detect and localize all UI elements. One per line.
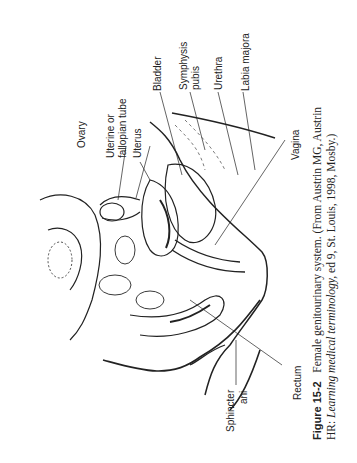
caption-line1: Figure 15-2 Female genitourinary system.… <box>310 107 324 440</box>
label-sphincter-line2: ani <box>238 391 249 404</box>
label-ovary: Ovary <box>76 121 87 148</box>
label-sphincter-line1: Sphincter <box>225 390 236 432</box>
label-labia-majora: Labia majora <box>240 33 251 91</box>
figure-number: Figure 15-2 <box>311 381 323 440</box>
label-bladder: Bladder <box>152 57 163 91</box>
label-uterine-tube-line2: fallopian tube <box>117 99 128 159</box>
caption-line2: HR: Learning medical terminology, ed 9, … <box>324 107 338 440</box>
figure-caption: Figure 15-2 Female genitourinary system.… <box>310 107 338 440</box>
label-symphysis-line1: Symphysis <box>178 42 189 90</box>
label-symphysis-line2: pubis <box>190 66 201 90</box>
label-urethra: Urethra <box>213 57 224 90</box>
label-rectum: Rectum <box>292 366 303 400</box>
label-uterus: Uterus <box>132 129 143 158</box>
label-vagina: Vagina <box>290 130 301 160</box>
label-uterine-tube-line1: Uterine or <box>105 114 116 158</box>
